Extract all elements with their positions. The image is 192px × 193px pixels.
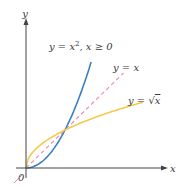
curve-x-squared (26, 62, 91, 168)
label-x-squared: y = x2, x ≥ 0 (48, 40, 113, 52)
x-axis-label: x (170, 163, 176, 174)
y-axis-arrow-icon (24, 18, 29, 25)
y-axis-label: y (21, 8, 28, 19)
label-identity: y = x (112, 62, 139, 73)
function-graph: y x 0 y = x2, x ≥ 0 y = x y = √x (0, 0, 192, 193)
curve-identity (26, 73, 124, 168)
x-axis-arrow-icon (161, 166, 168, 171)
label-sqrt: y = √x (127, 95, 161, 106)
curve-sqrt (26, 102, 143, 168)
curves-group (26, 62, 143, 168)
